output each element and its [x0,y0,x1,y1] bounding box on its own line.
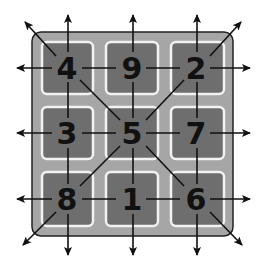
number-r2c2: 6 [186,182,207,217]
number-r0c2: 2 [186,51,207,86]
number-r1c2: 7 [186,116,207,151]
number-r0c0: 4 [57,51,78,86]
number-r1c0: 3 [57,116,78,151]
number-r0c1: 9 [122,51,143,86]
magic-square-diagram: 4 9 2 3 5 7 8 1 6 [0,0,267,275]
number-r2c0: 8 [57,182,78,217]
number-r2c1: 1 [122,182,143,217]
number-r1c1: 5 [122,116,143,151]
